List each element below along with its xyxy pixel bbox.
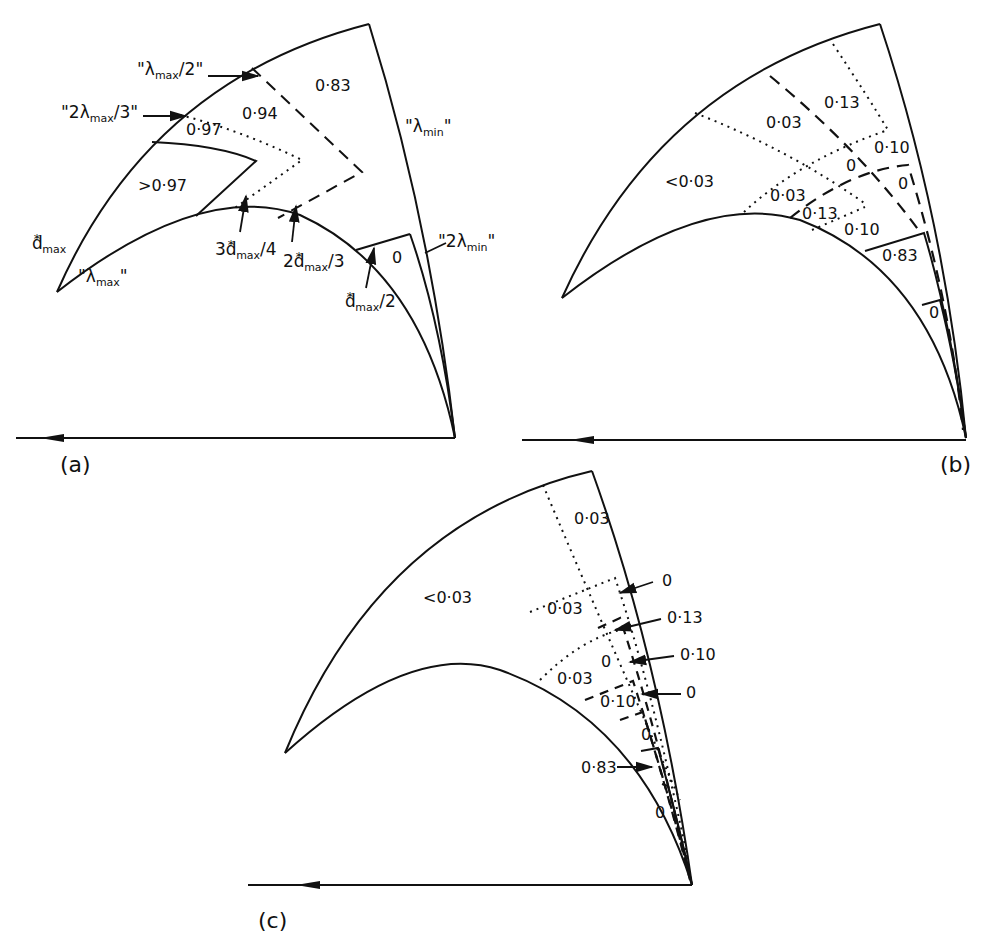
figure-lines <box>0 0 982 945</box>
callout-value: 0·83 <box>581 760 617 776</box>
region-value: 0 <box>655 805 665 821</box>
callout-value: 0·13 <box>667 610 703 626</box>
region-value: <0·03 <box>423 590 472 606</box>
label-two-lambda-max-third: "2λmax/3" <box>61 104 138 124</box>
panel-tag-a: (a) <box>60 452 91 477</box>
lambda-min-arc <box>880 24 966 438</box>
region-value: 0·13 <box>802 206 838 222</box>
region-value: >0·97 <box>138 178 187 194</box>
callout-value: 0 <box>686 685 696 701</box>
panel-tag-c: (c) <box>258 908 287 933</box>
region-value: 0 <box>898 176 908 192</box>
outer-arc <box>562 24 880 298</box>
label-three-d-max-quarter: 3d*max/4 <box>215 238 277 261</box>
region-value: 0·10 <box>844 222 880 238</box>
region-value: <0·03 <box>665 174 714 190</box>
region-value: 0·10 <box>874 140 910 156</box>
beam-arrow-icon <box>570 436 594 444</box>
region-value: 0 <box>601 654 611 670</box>
region-value: 0·03 <box>557 671 593 687</box>
region-value: 0·03 <box>770 188 806 204</box>
region-value: 0 <box>846 158 856 174</box>
label-two-lambda-min: "2λmin" <box>438 233 495 253</box>
panel-tag-b: (b) <box>940 452 971 477</box>
beam-arrow-icon <box>40 434 64 442</box>
outer-arc <box>285 471 592 753</box>
label-d-max: d*max <box>32 232 66 255</box>
region-value: 0·03 <box>766 115 802 131</box>
region-value: 0·83 <box>315 78 351 94</box>
region-value: 0·83 <box>882 248 918 264</box>
label-lambda-max-half: "λmax/2" <box>137 61 203 81</box>
beam-arrow-icon <box>296 881 320 889</box>
region-value: 0·94 <box>242 106 278 122</box>
callout-value: 0 <box>662 573 672 589</box>
label-lambda-min: "λmin" <box>405 118 451 138</box>
panel-c-diagram <box>248 471 692 889</box>
panel-b-diagram <box>522 24 966 444</box>
region-value: 0·13 <box>824 95 860 111</box>
region-value: 0·03 <box>574 511 610 527</box>
callout-value: 0·10 <box>680 647 716 663</box>
region-value: 0·97 <box>186 122 222 138</box>
region-value: 0·03 <box>547 601 583 617</box>
panel-a-diagram <box>16 24 455 442</box>
label-d-max-half: d*max/2 <box>345 290 396 313</box>
label-two-d-max-third: 2d*max/3 <box>283 250 345 273</box>
region-value: 0·10 <box>600 694 636 710</box>
region-value: 0 <box>929 305 939 321</box>
label-lambda-max: "λmax" <box>78 268 128 288</box>
region-value: 0 <box>641 727 651 743</box>
region-value: 0 <box>392 250 402 266</box>
